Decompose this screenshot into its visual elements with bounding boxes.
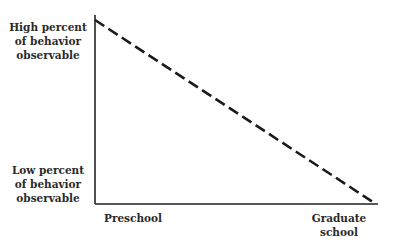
x-label-graduate-school: Graduate school [306,211,372,239]
trend-line-dashed [95,20,376,204]
y-label-low: Low percent of behavior observable [8,163,88,205]
y-label-high: High percent of behavior observable [8,20,88,62]
x-label-preschool: Preschool [104,211,164,225]
